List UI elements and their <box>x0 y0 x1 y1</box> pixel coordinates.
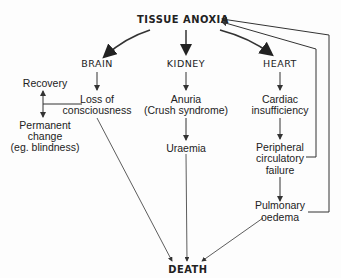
node-peripheral-l3: failure <box>266 164 295 176</box>
node-permanent-change-l3: (eg. blindness) <box>11 141 80 153</box>
node-recovery: Recovery <box>23 77 67 89</box>
node-kidney: KIDNEY <box>167 58 205 70</box>
node-pulmonary-l2: oedema <box>261 211 299 223</box>
node-peripheral-l2: circulatory <box>256 152 304 164</box>
node-loss-of-consciousness-l2: consciousness <box>63 104 132 116</box>
node-anuria-l2: (Crush syndrome) <box>144 104 228 116</box>
node-death: DEATH <box>168 264 207 276</box>
node-cardiac-l2: insufficiency <box>251 104 308 116</box>
node-heart: HEART <box>263 58 297 70</box>
diagram-canvas: TISSUE ANOXIA BRAIN KIDNEY HEART Recover… <box>0 0 341 278</box>
node-tissue-anoxia: TISSUE ANOXIA <box>137 14 229 26</box>
node-uraemia: Uraemia <box>166 142 206 154</box>
node-pulmonary-l1: Pulmonary <box>255 199 305 211</box>
node-brain: BRAIN <box>81 58 113 70</box>
